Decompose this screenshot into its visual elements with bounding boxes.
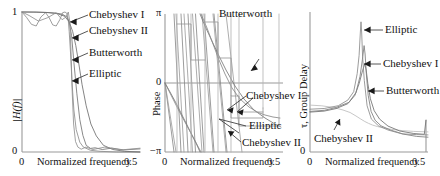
delay-label-butterworth: Butterworth bbox=[386, 85, 439, 96]
arrowhead-phase-butterworth bbox=[251, 65, 258, 71]
delay-ytick-bottom: 0 bbox=[300, 146, 305, 157]
phase-y-axis-title: Phase bbox=[152, 92, 163, 117]
magnitude-label-chebyshev-1: Chebyshev I bbox=[89, 9, 144, 20]
arrowhead-phase-chebyshev-1 bbox=[227, 107, 234, 113]
magnitude-label-butterworth: Butterworth bbox=[89, 47, 142, 58]
arrowhead-delay-elliptic bbox=[364, 27, 371, 34]
delay-label-elliptic: Elliptic bbox=[385, 24, 417, 35]
delay-xtick-left: 0 bbox=[307, 157, 312, 168]
phase-ytick-top: π bbox=[156, 8, 161, 19]
arrowhead-butterworth bbox=[72, 57, 79, 64]
curve-delay-butterworth bbox=[310, 64, 426, 135]
group-delay-panel: 0 0 0.5 Normalized frequency τ, Group De… bbox=[288, 0, 440, 176]
phase-label-butterworth: Butterworth bbox=[219, 8, 272, 19]
arrowhead-delay-chebyshev-2 bbox=[335, 119, 341, 126]
magnitude-response-panel: 1 0 0 0.5 Normalized frequency |H(f)| Ch… bbox=[0, 0, 150, 176]
phase-ytick-mid: 0 bbox=[156, 77, 161, 88]
phase-response-panel: π 0 −π 0 0.5 Normalized frequency Phase … bbox=[143, 0, 293, 176]
delay-y-axis-title: τ, Group Delay bbox=[299, 64, 310, 128]
delay-x-axis-title: Normalized frequency bbox=[325, 157, 419, 168]
magnitude-ytick-bottom: 0 bbox=[12, 146, 17, 157]
delay-label-chebyshev-2: Chebyshev II bbox=[314, 133, 373, 144]
phase-plot-svg bbox=[143, 0, 293, 176]
magnitude-y-axis-title: |H(f)| bbox=[12, 99, 23, 122]
phase-label-elliptic: Elliptic bbox=[249, 120, 281, 131]
phase-x-axis-title: Normalized frequency bbox=[180, 157, 274, 168]
phase-ytick-bottom: −π bbox=[150, 146, 161, 157]
arrowhead-cheb2 bbox=[72, 35, 79, 42]
arrowhead-cheb1 bbox=[70, 19, 77, 26]
magnitude-ytick-top: 1 bbox=[12, 7, 17, 18]
magnitude-xtick-left: 0 bbox=[19, 157, 24, 168]
magnitude-label-chebyshev-2: Chebyshev II bbox=[89, 25, 148, 36]
curve-delay-elliptic bbox=[310, 22, 428, 135]
filter-response-figure: 1 0 0 0.5 Normalized frequency |H(f)| Ch… bbox=[0, 0, 440, 176]
delay-label-chebyshev-1: Chebyshev I bbox=[383, 58, 438, 69]
phase-xtick-left: 0 bbox=[162, 157, 167, 168]
magnitude-label-elliptic: Elliptic bbox=[89, 68, 121, 79]
magnitude-x-axis-title: Normalized frequency bbox=[37, 157, 131, 168]
